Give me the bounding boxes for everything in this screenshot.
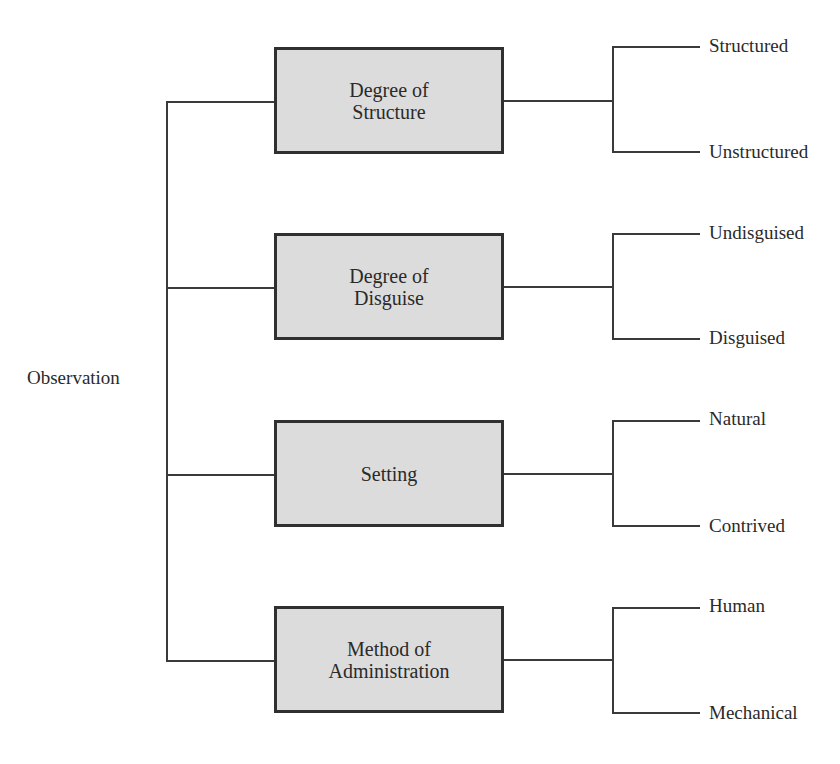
- category-label-line2: Administration: [328, 660, 449, 682]
- branch-structure-vertical: [612, 46, 614, 152]
- category-label-line1: Degree of: [349, 79, 428, 101]
- category-box-administration: Method of Administration: [274, 606, 504, 713]
- connector-spine-structure: [166, 101, 276, 103]
- leaf-contrived: Contrived: [709, 516, 785, 536]
- category-label-line1: Method of: [328, 638, 449, 660]
- branch-contrived-line: [612, 525, 700, 527]
- category-label-line2: Structure: [349, 101, 428, 123]
- root-node-observation: Observation: [27, 367, 120, 389]
- connector-disguise-branch: [504, 286, 612, 288]
- leaf-human: Human: [709, 596, 765, 616]
- leaf-mechanical: Mechanical: [709, 703, 798, 723]
- connector-spine-disguise: [166, 287, 276, 289]
- branch-setting-vertical: [612, 420, 614, 526]
- category-box-disguise: Degree of Disguise: [274, 233, 504, 340]
- branch-disguised-line: [612, 338, 700, 340]
- connector-structure-branch: [504, 100, 612, 102]
- branch-natural-line: [612, 420, 700, 422]
- connector-setting-branch: [504, 473, 612, 475]
- connector-spine-administration: [166, 660, 276, 662]
- leaf-structured: Structured: [709, 36, 788, 56]
- branch-mechanical-line: [612, 712, 700, 714]
- leaf-undisguised: Undisguised: [709, 223, 804, 243]
- category-label-line2: Disguise: [349, 287, 428, 309]
- connector-spine-setting: [166, 474, 276, 476]
- category-label-line1: Setting: [361, 463, 418, 485]
- category-label-line1: Degree of: [349, 265, 428, 287]
- leaf-unstructured: Unstructured: [709, 142, 808, 162]
- branch-structured-line: [612, 46, 700, 48]
- branch-unstructured-line: [612, 151, 700, 153]
- leaf-disguised: Disguised: [709, 328, 785, 348]
- branch-disguise-vertical: [612, 233, 614, 338]
- leaf-natural: Natural: [709, 409, 766, 429]
- category-box-setting: Setting: [274, 420, 504, 527]
- branch-undisguised-line: [612, 233, 700, 235]
- root-spine: [166, 101, 168, 661]
- branch-administration-vertical: [612, 607, 614, 713]
- branch-human-line: [612, 607, 700, 609]
- category-box-structure: Degree of Structure: [274, 47, 504, 154]
- connector-administration-branch: [504, 659, 612, 661]
